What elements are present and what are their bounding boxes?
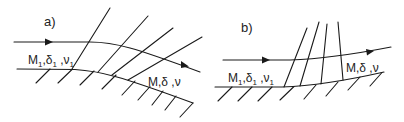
- upstream-state-a: M1,δ1 ,ν1: [28, 53, 75, 69]
- arrow-icon: [45, 39, 53, 46]
- mach-line: [98, 16, 148, 72]
- mach-line: [300, 22, 319, 86]
- mach-line: [72, 8, 110, 69]
- panel-b-label: b): [241, 20, 253, 35]
- streamline-b: [223, 47, 391, 60]
- arrow-icon: [262, 57, 270, 64]
- mach-line: [338, 22, 343, 80]
- upstream-state-b: M1,δ1 ,ν1: [228, 71, 275, 87]
- panel-a-label: a): [44, 14, 56, 29]
- downstream-state-a: M,δ ,ν: [148, 75, 181, 89]
- diagram-canvas: a) b) M1,δ1 ,ν1 M,δ ,ν M1,δ1 ,ν1 M,δ ,ν: [0, 0, 404, 122]
- mach-line: [284, 28, 307, 87]
- mach-line: [321, 24, 327, 84]
- mach-line: [128, 37, 202, 80]
- downstream-state-b: M,δ ,ν: [346, 61, 379, 75]
- mach-line: [112, 28, 173, 75]
- flow-diagram: a) b) M1,δ1 ,ν1 M,δ ,ν M1,δ1 ,ν1 M,δ ,ν: [0, 0, 404, 122]
